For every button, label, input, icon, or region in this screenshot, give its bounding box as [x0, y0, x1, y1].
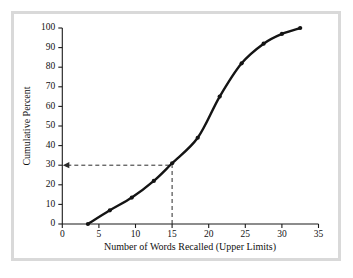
y-axis-title: Cumulative Percent — [21, 86, 32, 165]
reference-arrowhead — [63, 162, 70, 168]
y-axis-ticks: 0102030405060708090100 — [41, 22, 62, 228]
x-tick-label: 30 — [277, 229, 287, 239]
x-tick-label: 20 — [204, 229, 214, 239]
y-tick-label: 70 — [46, 81, 56, 91]
y-tick-label: 30 — [46, 159, 56, 169]
cumulative-percent-ogive-chart: 0102030405060708090100 05101520253035 Nu… — [0, 0, 353, 278]
data-point-marker — [298, 26, 302, 30]
data-point-marker — [196, 136, 200, 140]
x-tick-label: 15 — [167, 229, 177, 239]
data-point-marker — [86, 222, 90, 226]
data-point-marker — [240, 61, 244, 65]
x-tick-label: 5 — [97, 229, 102, 239]
cumulative-curve — [88, 28, 300, 224]
data-point-marker — [280, 32, 284, 36]
data-point-marker — [170, 161, 174, 165]
x-axis-ticks: 05101520253035 — [60, 224, 324, 239]
y-tick-label: 90 — [46, 42, 56, 52]
x-axis-title: Number of Words Recalled (Upper Limits) — [104, 241, 276, 253]
x-tick-label: 35 — [314, 229, 324, 239]
y-tick-label: 80 — [46, 61, 56, 71]
cumulative-curve-markers — [86, 26, 302, 226]
x-tick-label: 10 — [131, 229, 141, 239]
data-point-marker — [130, 195, 134, 199]
y-tick-label: 50 — [46, 120, 56, 130]
y-tick-label: 40 — [46, 140, 56, 150]
x-tick-label: 25 — [241, 229, 251, 239]
median-reference-guides — [63, 162, 172, 224]
y-tick-label: 0 — [51, 218, 56, 228]
data-point-marker — [218, 95, 222, 99]
data-point-marker — [152, 179, 156, 183]
y-tick-label: 20 — [46, 179, 56, 189]
data-point-marker — [108, 208, 112, 212]
x-tick-label: 0 — [60, 229, 65, 239]
y-tick-label: 60 — [46, 101, 56, 111]
data-point-marker — [262, 42, 266, 46]
chart-root: 0102030405060708090100 05101520253035 Nu… — [0, 0, 353, 278]
y-tick-label: 100 — [41, 22, 56, 32]
y-tick-label: 10 — [46, 199, 56, 209]
